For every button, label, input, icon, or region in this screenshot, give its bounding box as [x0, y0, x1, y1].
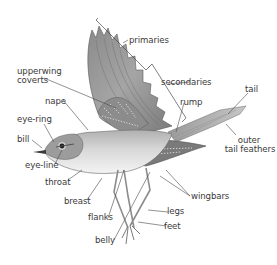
label-bill: bill: [17, 135, 29, 144]
label-nape: nape: [45, 97, 66, 106]
label-primaries: primaries: [129, 36, 169, 45]
label-legs: legs: [167, 207, 184, 216]
label-eye-ring: eye-ring: [17, 115, 52, 124]
label-belly: belly: [95, 236, 115, 245]
label-tail: tail: [245, 85, 258, 94]
label-rump: rump: [180, 98, 202, 107]
label-wingbars: wingbars: [191, 192, 229, 201]
label-eye-line: eye-line: [25, 161, 58, 170]
label-upperwing-coverts-2: coverts: [17, 76, 48, 85]
label-throat: throat: [45, 178, 70, 187]
label-outer-tail-feathers-2: tail feathers: [222, 145, 277, 154]
label-feet: feet: [164, 222, 181, 231]
label-breast: breast: [64, 197, 91, 206]
label-secondaries: secondaries: [161, 78, 212, 87]
label-flanks: flanks: [88, 213, 113, 222]
